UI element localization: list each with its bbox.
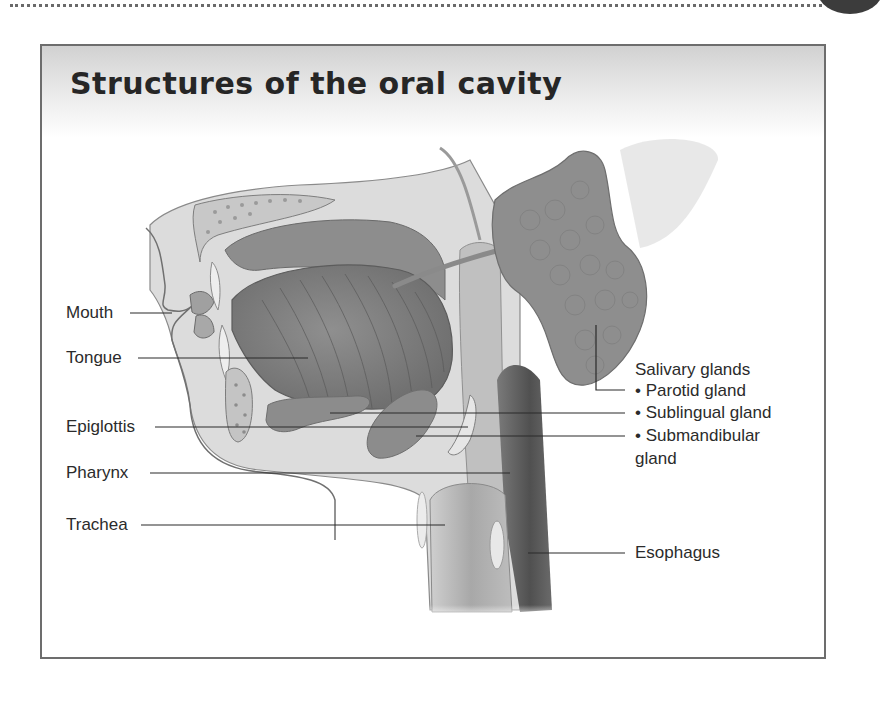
label-submandibular-cont: gland [635,449,677,469]
label-tongue: Tongue [66,348,122,368]
label-parotid: • Parotid gland [635,381,746,401]
figure-title: Structures of the oral cavity [70,66,562,101]
label-submandibular: • Submandibular [635,426,760,446]
label-epiglottis: Epiglottis [66,417,135,437]
label-sublingual: • Sublingual gland [635,403,771,423]
label-trachea: Trachea [66,515,128,535]
label-pharynx: Pharynx [66,463,128,483]
label-salivary-heading: Salivary glands [635,360,750,380]
figure-frame: Structures of the oral cavity [40,44,826,659]
label-mouth: Mouth [66,303,113,323]
label-esophagus: Esophagus [635,543,720,563]
